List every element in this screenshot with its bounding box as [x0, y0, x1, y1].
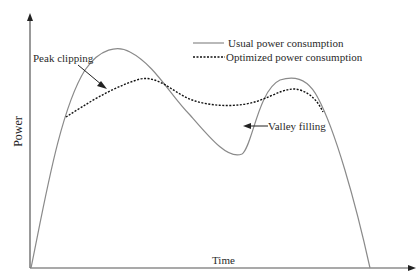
valley-arrowhead-icon	[243, 123, 251, 129]
optimized-consumption-curve	[66, 78, 323, 117]
usual-consumption-curve	[31, 49, 370, 268]
peak-clipping-label: Peak clipping	[33, 52, 93, 64]
valley-filling-label: Valley filling	[268, 120, 326, 132]
legend-usual-label: Usual power consumption	[228, 37, 343, 49]
legend-optimized-label: Optimized power consumption	[226, 51, 362, 63]
chart-canvas	[0, 0, 420, 273]
x-axis-label: Time	[212, 254, 235, 266]
y-axis-label: Power	[11, 112, 26, 152]
x-axis-arrow-icon	[408, 265, 416, 271]
y-axis-arrow-icon	[27, 13, 33, 21]
